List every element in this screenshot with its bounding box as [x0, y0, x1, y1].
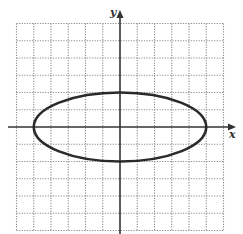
y-axis-label: y	[109, 6, 118, 19]
x-axis-label: x	[228, 128, 236, 141]
coordinate-plane: x y	[0, 0, 243, 234]
axes	[8, 10, 236, 234]
y-axis-arrow-icon	[117, 10, 124, 18]
